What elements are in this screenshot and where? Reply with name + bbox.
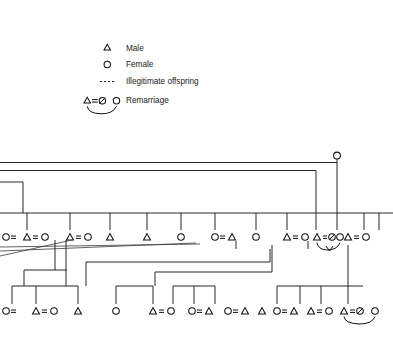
gen2-circle-01 <box>3 234 10 241</box>
gen2-circle-11 <box>253 234 260 241</box>
legend-row-illegitimate: Illegitimate offspring <box>100 77 199 86</box>
legend-label-male: Male <box>126 44 144 53</box>
gen2-triangle-17 <box>345 234 352 241</box>
gen3-circle-19 <box>372 308 379 315</box>
legend-row-female: Female <box>104 60 154 69</box>
generation-3-row <box>3 308 379 325</box>
gen2-triangle-14 <box>314 234 321 241</box>
gen3-triangle-06 <box>150 308 157 315</box>
gen3-circle-13 <box>274 308 281 315</box>
female-circle-icon <box>104 61 110 67</box>
gen3-triangle-17 <box>341 308 348 315</box>
gen2-circle-18 <box>363 234 370 241</box>
remarriage-female-circle-icon <box>113 98 119 104</box>
legend-row-male: Male <box>104 44 144 53</box>
generation-1-links <box>0 152 340 213</box>
gen3-triangle-09 <box>206 308 213 315</box>
gen3-circle-16 <box>326 308 333 315</box>
gen2-triangle-07 <box>144 234 151 241</box>
gen3-circle-08 <box>189 308 196 315</box>
gen3-circle-10 <box>225 308 232 315</box>
gen2-circle-08 <box>178 234 185 241</box>
legend-label-remarriage: Remarriage <box>126 96 169 105</box>
gen3-triangle-02 <box>33 308 40 315</box>
gen3-circle-03 <box>51 308 58 315</box>
gen3-circle-07 <box>168 308 175 315</box>
gen1-female-circle <box>334 152 341 159</box>
gen3-triangle-15 <box>308 308 315 315</box>
gen2-circle-05 <box>85 234 92 241</box>
gen3-circle-01 <box>3 308 10 315</box>
generation-2-links <box>0 182 393 230</box>
kinship-diagram-canvas: Male Female Illegitimate offspring <box>0 0 393 337</box>
gen2-triangle-06 <box>107 234 114 241</box>
remarriage-curve-icon <box>87 106 116 114</box>
gen3-triangle-04 <box>75 308 82 315</box>
generation-3-links <box>12 240 363 304</box>
kinship-diagram-svg: Male Female Illegitimate offspring <box>0 0 393 337</box>
legend: Male Female Illegitimate offspring <box>84 44 199 114</box>
gen3-triangle-14 <box>291 308 298 315</box>
male-triangle-icon <box>104 44 111 50</box>
gen2-circle-16 <box>337 234 344 241</box>
gen2-triangle-02 <box>24 234 31 241</box>
gen2-triangle-10 <box>229 234 236 241</box>
gen2-triangle-04 <box>67 234 74 241</box>
cross-link-b <box>0 240 72 256</box>
gen3-circle-05 <box>113 308 120 315</box>
gen3-triangle-12 <box>259 308 266 315</box>
gen2-circle-09 <box>212 234 219 241</box>
legend-row-remarriage: Remarriage <box>84 96 169 113</box>
legend-label-female: Female <box>126 60 154 69</box>
remarriage-male-triangle-icon <box>84 97 91 103</box>
gen3-remarriage-curve <box>344 317 375 324</box>
gen2-circle-13 <box>302 234 309 241</box>
gen3-triangle-11 <box>242 308 249 315</box>
gen2-triangle-12 <box>284 234 291 241</box>
legend-label-illegitimate: Illegitimate offspring <box>126 77 199 86</box>
gen2-circle-03 <box>42 234 49 241</box>
cross-links <box>0 240 200 256</box>
